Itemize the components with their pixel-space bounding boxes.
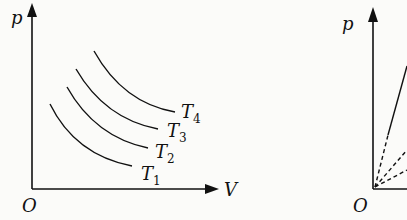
- y-axis-label: p: [11, 7, 23, 28]
- left-pv-diagram: p V O T1 T2 T3 T4: [11, 3, 239, 216]
- isochore-solid-line: [388, 66, 407, 135]
- right-p-diagram: p O: [342, 7, 407, 216]
- label-t1: T1: [141, 163, 161, 188]
- label-t2: T2: [155, 141, 175, 166]
- label-t4: T4: [181, 101, 201, 126]
- x-axis-arrow-icon: [205, 184, 219, 194]
- right-y-axis-label: p: [342, 13, 354, 34]
- isotherm-t3: [76, 69, 158, 129]
- right-y-axis-arrow-icon: [368, 7, 378, 22]
- origin-label: O: [22, 195, 37, 216]
- isotherm-t1: [50, 104, 132, 166]
- isotherm-t2: [67, 87, 148, 148]
- y-axis-arrow-icon: [27, 3, 37, 17]
- label-t3: T3: [167, 120, 187, 145]
- x-axis-label: V: [224, 179, 239, 200]
- isotherm-t4: [94, 51, 175, 112]
- isochore-dashed-3: [375, 170, 407, 187]
- isochore-dashed-2: [375, 150, 407, 187]
- diagram-canvas: p V O T1 T2 T3 T4 p O: [0, 0, 407, 220]
- right-origin-label: O: [353, 195, 368, 216]
